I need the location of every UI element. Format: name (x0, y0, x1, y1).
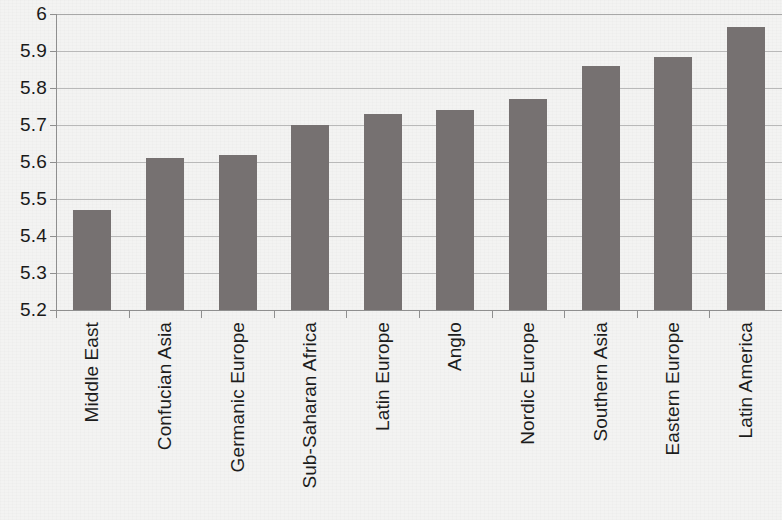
x-axis-tick (346, 311, 347, 318)
x-axis-tick (492, 311, 493, 318)
y-axis-tick-label: 6 (36, 3, 47, 25)
y-axis-line (56, 14, 57, 311)
y-axis-tick-label: 5.7 (20, 114, 47, 136)
x-axis-tick-label: Eastern Europe (662, 322, 684, 455)
y-axis-tick-label: 5.9 (20, 40, 47, 62)
gridline (56, 51, 782, 52)
category-axis-labels: Middle EastConfucian AsiaGermanic Europe… (56, 322, 782, 512)
y-axis-tick-label: 5.2 (20, 299, 47, 321)
x-axis-tick (129, 311, 130, 318)
y-axis-tick-label: 5.4 (20, 225, 47, 247)
bar (727, 27, 765, 310)
x-axis-label-slot: Middle East (73, 322, 111, 512)
x-axis-tick-label: Anglo (444, 322, 466, 371)
bar (219, 155, 257, 310)
x-axis-tick (564, 311, 565, 318)
x-axis-tick-label: Latin America (735, 322, 757, 438)
x-axis-label-slot: Latin Europe (364, 322, 402, 512)
x-axis-tick-label: Latin Europe (372, 322, 394, 431)
plot-area: 65.95.85.75.65.55.45.35.2 (56, 14, 782, 310)
bar (146, 158, 184, 310)
x-axis-label-slot: Anglo (436, 322, 474, 512)
bar (73, 210, 111, 310)
x-axis-tick-label: Sub-Saharan Africa (299, 322, 321, 489)
x-axis-tick-label: Nordic Europe (517, 322, 539, 445)
y-axis-tick-label: 5.5 (20, 188, 47, 210)
y-axis-tick-label: 5.8 (20, 77, 47, 99)
x-axis-label-slot: Southern Asia (582, 322, 620, 512)
x-axis-label-slot: Latin America (727, 322, 765, 512)
x-axis-tick (419, 311, 420, 318)
x-axis-tick-label: Middle East (81, 322, 103, 422)
x-axis-tick-label: Confucian Asia (154, 322, 176, 450)
y-axis-tick-label: 5.3 (20, 262, 47, 284)
bar (436, 110, 474, 310)
x-axis-tick-label: Germanic Europe (227, 322, 249, 472)
gridline (56, 14, 782, 15)
x-axis-tick (201, 311, 202, 318)
x-axis-tick (637, 311, 638, 318)
x-axis-label-slot: Nordic Europe (509, 322, 547, 512)
x-axis-label-slot: Sub-Saharan Africa (291, 322, 329, 512)
bar-chart: 65.95.85.75.65.55.45.35.2 Middle EastCon… (0, 0, 782, 520)
bar (654, 57, 692, 310)
x-axis-label-slot: Confucian Asia (146, 322, 184, 512)
x-axis-label-slot: Germanic Europe (219, 322, 257, 512)
bar (509, 99, 547, 310)
x-axis-label-slot: Eastern Europe (654, 322, 692, 512)
x-axis-tick (274, 311, 275, 318)
y-axis-tick-label: 5.6 (20, 151, 47, 173)
bar (291, 125, 329, 310)
x-axis-tick (709, 311, 710, 318)
x-axis-tick (56, 311, 57, 318)
bar (582, 66, 620, 310)
bar (364, 114, 402, 310)
x-axis-tick-label: Southern Asia (590, 322, 612, 442)
